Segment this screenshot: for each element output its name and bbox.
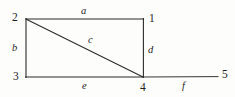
edge-label-f: f (182, 81, 185, 92)
graph-edges-canvas (0, 0, 235, 97)
edge-label-e: e (82, 81, 87, 92)
edge-label-d: d (148, 45, 153, 56)
vertex-label-4: 4 (140, 82, 146, 94)
vertex-label-2: 2 (12, 12, 18, 24)
vertex-label-5: 5 (222, 69, 228, 81)
vertex-label-1: 1 (149, 13, 155, 25)
edge-label-a: a (81, 6, 86, 17)
graph-diagram-figure: 1 2 3 4 5 a b c d e f (0, 0, 235, 97)
edge-label-b: b (12, 43, 17, 54)
edge-c-line (26, 19, 143, 77)
vertex-label-3: 3 (13, 71, 19, 83)
edge-label-c: c (88, 35, 93, 46)
